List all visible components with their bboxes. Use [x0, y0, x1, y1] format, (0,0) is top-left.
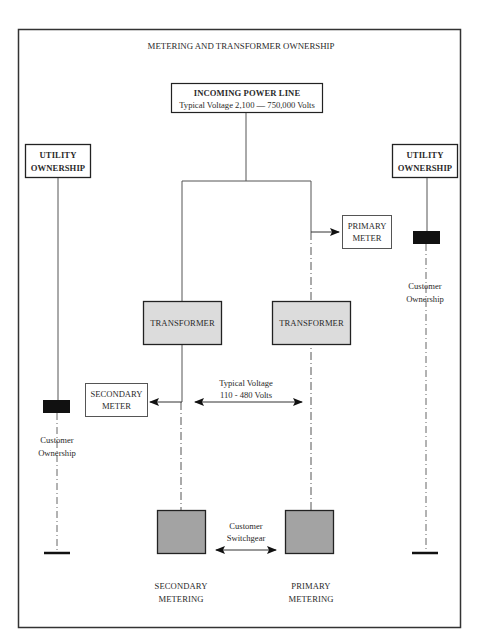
incoming-label: INCOMING POWER LINE: [194, 88, 301, 98]
transformer-right: TRANSFORMER: [273, 302, 351, 345]
diagram-title: METERING AND TRANSFORMER OWNERSHIP: [148, 41, 335, 51]
primary-metering-line1: PRIMARY: [291, 581, 330, 591]
secondary-meter-line1: SECONDARY: [90, 389, 142, 399]
switchgear-right: [286, 511, 334, 554]
switchgear-line2: Switchgear: [227, 533, 266, 543]
utility-right-line1: UTILITY: [407, 150, 445, 160]
transformer-left-label: TRANSFORMER: [150, 318, 215, 328]
utility-left-line2: OWNERSHIP: [31, 163, 85, 173]
customer-ownership-left-line1: Customer: [40, 435, 74, 445]
primary-meter-line1: PRIMARY: [348, 221, 387, 231]
customer-ownership-left-line2: Ownership: [38, 448, 76, 458]
secondary-meter-line2: METER: [102, 401, 131, 411]
customer-ownership-right-line2: Ownership: [406, 294, 444, 304]
meter-block-right: [413, 231, 440, 244]
customer-ownership-right-line1: Customer: [408, 281, 442, 291]
metering-diagram: METERING AND TRANSFORMER OWNERSHIP INCOM…: [0, 0, 481, 636]
secondary-voltage-line2: 110 - 480 Volts: [220, 390, 273, 400]
utility-right-line2: OWNERSHIP: [398, 163, 452, 173]
transformer-left: TRANSFORMER: [144, 302, 222, 345]
utility-left-line1: UTILITY: [40, 150, 78, 160]
primary-metering-line2: METERING: [288, 594, 333, 604]
utility-ownership-right: UTILITY OWNERSHIP: [393, 145, 458, 178]
incoming-voltage: Typical Voltage 2,100 — 750,000 Volts: [179, 100, 315, 110]
primary-meter-line2: METER: [352, 233, 381, 243]
transformer-right-label: TRANSFORMER: [279, 318, 344, 328]
secondary-metering-line1: SECONDARY: [155, 581, 208, 591]
secondary-voltage-line1: Typical Voltage: [219, 378, 273, 388]
switchgear-left: [158, 511, 206, 554]
utility-ownership-left: UTILITY OWNERSHIP: [26, 145, 91, 178]
secondary-meter-box: SECONDARY METER: [86, 384, 148, 417]
secondary-metering-line2: METERING: [158, 594, 203, 604]
switchgear-line1: Customer: [229, 521, 263, 531]
incoming-power-line-box: INCOMING POWER LINE Typical Voltage 2,10…: [172, 84, 323, 113]
meter-block-left: [43, 400, 70, 413]
primary-meter-box: PRIMARY METER: [343, 216, 392, 249]
